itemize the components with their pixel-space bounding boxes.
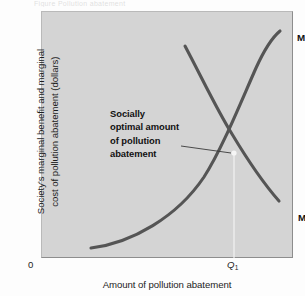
annotation-line-2: optimal amount <box>110 120 179 133</box>
annotation-line-3: of pollution <box>110 134 179 147</box>
annotation-line-1: Socially <box>110 107 179 120</box>
q1-subscript: 1 <box>235 264 239 271</box>
mb-curve-label: MB <box>298 212 305 223</box>
equilibrium-point-marker <box>231 150 236 155</box>
annotation-line-4: abatement <box>110 147 179 160</box>
socially-optimal-annotation: Socially optimal amount of pollution aba… <box>110 107 179 160</box>
mc-curve-label: MC <box>297 32 305 43</box>
y-axis-title-line-1: Society's marginal benefit and marginal <box>34 8 48 256</box>
y-axis-title: Society's marginal benefit and marginal … <box>34 8 61 256</box>
x-axis-title: Amount of pollution abatement <box>41 279 293 290</box>
x-axis-q1-tick: Q1 <box>227 259 238 270</box>
annotation-leader-line <box>181 146 231 153</box>
x-axis-origin-tick: 0 <box>28 259 33 270</box>
y-axis-title-line-2: cost of pollution abatement (dollars) <box>48 8 62 256</box>
pollution-abatement-figure: Figure Pollution abatement MC MB Sociall… <box>0 0 305 296</box>
q1-symbol: Q <box>227 259 234 270</box>
figure-caption-sliver: Figure Pollution abatement <box>34 0 184 7</box>
